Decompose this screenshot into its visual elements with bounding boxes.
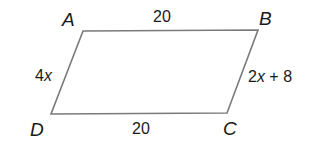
vertex-label-c: C <box>223 118 237 139</box>
vertex-label-a: A <box>61 9 75 30</box>
parallelogram-abcd <box>51 30 258 114</box>
side-label-da: 4x <box>35 67 53 84</box>
side-label-cd: 20 <box>132 120 150 137</box>
vertex-label-b: B <box>259 8 272 29</box>
side-label-bc: 2x + 8 <box>248 68 292 85</box>
parallelogram-diagram: A B C D 20 20 4x 2x + 8 <box>0 0 327 149</box>
side-label-ab: 20 <box>153 8 171 25</box>
vertex-label-d: D <box>30 119 44 140</box>
